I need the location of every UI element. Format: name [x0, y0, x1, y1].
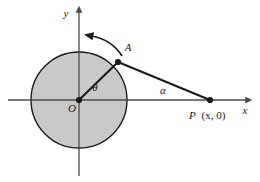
origin-label: O [68, 102, 76, 114]
point-p-label: P (x, 0) [188, 109, 226, 122]
point-o-marker [76, 97, 82, 103]
point-p-name: P [188, 109, 196, 121]
geometry-figure: y x O A θ α P (x, 0) [0, 0, 260, 182]
x-axis-label: x [242, 104, 248, 116]
angle-alpha-label: α [160, 84, 166, 96]
figure-canvas: y x O A θ α P (x, 0) [0, 0, 260, 182]
point-a-label: A [124, 41, 132, 53]
point-a-marker [115, 59, 121, 65]
point-p-coords: (x, 0) [201, 109, 225, 122]
counterclockwise-rotation-arrow [92, 36, 122, 56]
point-p-marker [207, 97, 213, 103]
angle-theta-label: θ [92, 81, 98, 93]
y-axis-label: y [63, 7, 69, 19]
